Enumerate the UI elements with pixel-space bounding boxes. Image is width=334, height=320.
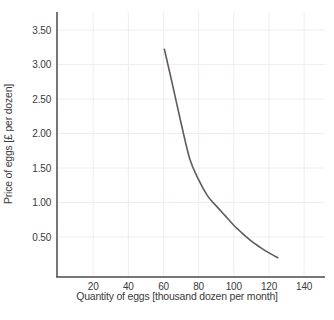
plot-area: 204060801001201400.501.001.502.002.503.0… bbox=[0, 0, 334, 320]
x-axis-title: Quantity of eggs [thousand dozen per mon… bbox=[76, 290, 278, 302]
y-tick-label: 0.50 bbox=[32, 232, 51, 243]
demand-curve bbox=[164, 49, 277, 257]
y-tick-label: 2.50 bbox=[32, 94, 51, 105]
demand-curve-chart: 204060801001201400.501.001.502.002.503.0… bbox=[0, 0, 334, 320]
y-tick-label: 3.00 bbox=[32, 59, 51, 70]
y-tick-label: 1.50 bbox=[32, 163, 51, 174]
y-axis-title: Price of eggs [£ per dozen] bbox=[2, 84, 14, 204]
y-tick-label: 3.50 bbox=[32, 25, 51, 36]
y-tick-label: 1.00 bbox=[32, 197, 51, 208]
y-tick-label: 2.00 bbox=[32, 128, 51, 139]
x-tick-label: 140 bbox=[296, 281, 313, 292]
